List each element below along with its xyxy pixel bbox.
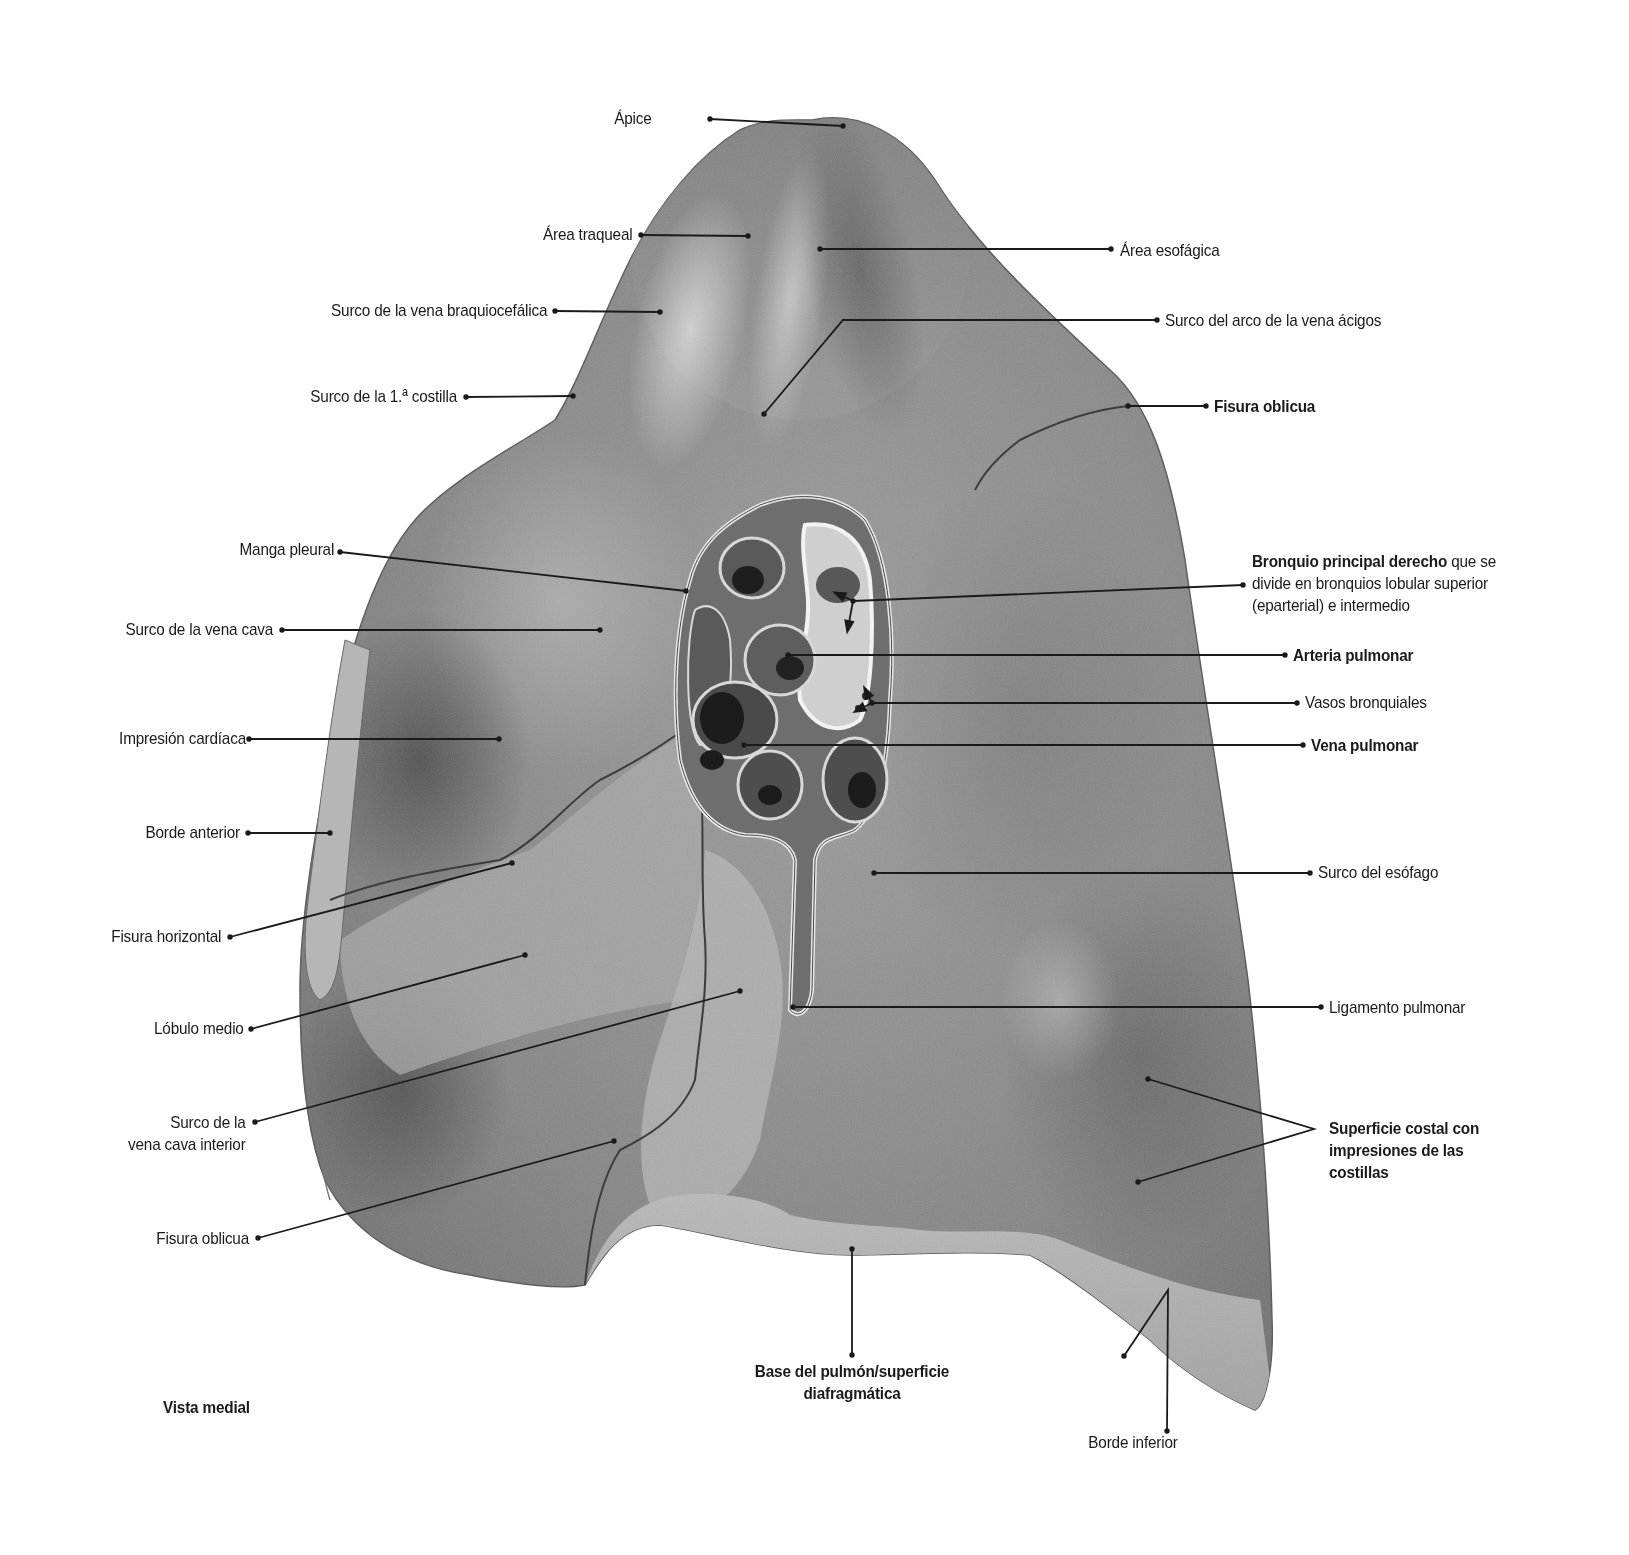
leader-dot xyxy=(228,935,232,939)
leader-dot xyxy=(786,653,790,657)
leader-dot xyxy=(280,628,284,632)
leader-dot xyxy=(746,234,750,238)
leader-dot xyxy=(684,589,688,593)
leader-dot xyxy=(639,233,643,237)
label-manga-pleural: Manga pleural xyxy=(239,539,334,561)
area-traqueal-leader-line xyxy=(641,235,748,236)
leader-dot xyxy=(1283,653,1287,657)
lung-illustration xyxy=(0,0,1629,1555)
leader-dot xyxy=(1204,404,1208,408)
leader-dot xyxy=(738,989,742,993)
leader-dot xyxy=(553,309,557,313)
leader-dot xyxy=(497,737,501,741)
leader-dot xyxy=(253,1120,257,1124)
label-area-traqueal: Área traqueal xyxy=(542,224,632,246)
label-arteria-pulmonar: Arteria pulmonar xyxy=(1293,645,1413,667)
label-surco-1a-costilla: Surco de la 1.ª costilla xyxy=(310,386,457,408)
leader-dot xyxy=(841,124,845,128)
lung-diagram: ÁpiceÁrea traquealSurco de la vena braqu… xyxy=(0,0,1629,1555)
leader-dot xyxy=(1155,318,1159,322)
leader-dot xyxy=(762,412,766,416)
leader-dot xyxy=(1319,1005,1323,1009)
label-borde-inferior: Borde inferior xyxy=(953,1432,1313,1454)
label-borde-anterior: Borde anterior xyxy=(146,822,240,844)
leader-dot xyxy=(464,395,468,399)
label-fisura-horizontal: Fisura horizontal xyxy=(111,926,221,948)
leader-dot xyxy=(523,953,527,957)
label-fisura-oblicua-izq: Fisura oblicua xyxy=(156,1228,249,1250)
label-bold-part: Bronquio principal derecho xyxy=(1252,552,1447,571)
leader-dot xyxy=(791,1005,795,1009)
leader-dot xyxy=(1241,583,1245,587)
leader-dot xyxy=(510,861,514,865)
leader-dot xyxy=(1126,404,1130,408)
label-vasos-bronquiales: Vasos bronquiales xyxy=(1305,692,1427,714)
leader-dot xyxy=(1295,701,1299,705)
leader-dot xyxy=(249,1027,253,1031)
label-base-pulmon: Base del pulmón/superficiediafragmática xyxy=(672,1361,1032,1405)
leader-dot xyxy=(818,247,822,251)
leader-dot xyxy=(1301,743,1305,747)
label-fisura-oblicua-der: Fisura oblicua xyxy=(1214,396,1315,418)
label-bronquio-principal: Bronquio principal derecho que sedivide … xyxy=(1252,551,1496,617)
leader-dot xyxy=(246,831,250,835)
leader-dot xyxy=(1146,1077,1150,1081)
leader-dot xyxy=(612,1139,616,1143)
leader-dot xyxy=(742,743,746,747)
leader-dot xyxy=(247,737,251,741)
view-caption: Vista medial xyxy=(163,1397,250,1419)
label-surco-vena-cava: Surco de la vena cava xyxy=(125,619,273,641)
leader-dot xyxy=(328,831,332,835)
label-surco-arco-vena-acigos: Surco del arco de la vena ácigos xyxy=(1165,310,1381,332)
label-superficie-costal: Superficie costal conimpresiones de lasc… xyxy=(1329,1118,1479,1184)
label-area-esofagica: Área esofágica xyxy=(1120,240,1220,262)
label-surco-vena-cava-inferior: Surco de lavena cava interior xyxy=(128,1112,246,1156)
label-surco-vena-braquiocefalica: Surco de la vena braquiocefálica xyxy=(331,300,547,322)
label-text-part: (eparterial) e intermedio xyxy=(1252,596,1410,615)
leader-dot xyxy=(256,1236,260,1240)
leader-dot xyxy=(338,550,342,554)
leader-dot xyxy=(598,628,602,632)
leader-dot xyxy=(850,1353,854,1357)
label-text-part: que se xyxy=(1447,552,1496,571)
leader-dot xyxy=(571,394,575,398)
surco-1a-costilla-leader-line xyxy=(466,396,573,397)
label-text-part: divide en bronquios lobular superior xyxy=(1252,574,1488,593)
label-surco-esofago: Surco del esófago xyxy=(1318,862,1438,884)
leader-dot xyxy=(658,310,662,314)
leader-dot xyxy=(1308,871,1312,875)
surco-vena-braquiocefalica-leader-line xyxy=(555,311,660,312)
leader-dot xyxy=(708,117,712,121)
leader-dot xyxy=(872,871,876,875)
label-vena-pulmonar: Vena pulmonar xyxy=(1311,735,1418,757)
leader-dot xyxy=(1122,1354,1126,1358)
leader-dot xyxy=(850,1247,854,1251)
leader-dot xyxy=(1136,1180,1140,1184)
leader-dot xyxy=(1109,247,1113,251)
label-lobulo-medio: Lóbulo medio xyxy=(154,1018,244,1040)
label-ligamento-pulmonar: Ligamento pulmonar xyxy=(1329,997,1465,1019)
label-apice: Ápice xyxy=(615,108,652,130)
label-impresion-cardiaca: Impresión cardíaca xyxy=(119,728,246,750)
